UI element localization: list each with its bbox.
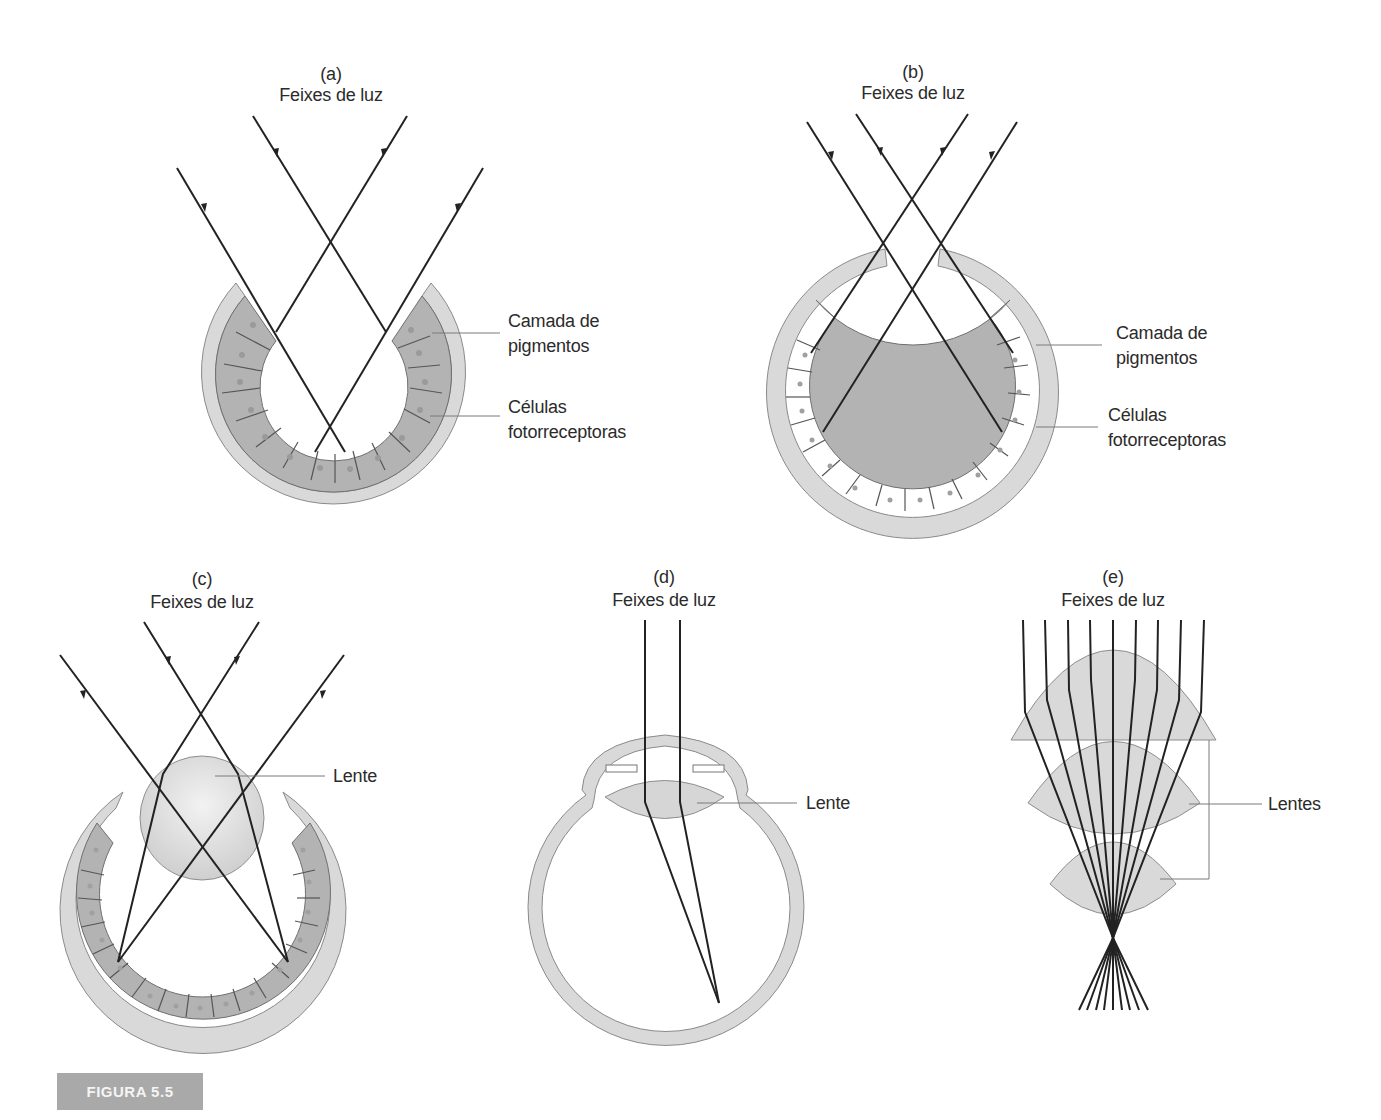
panel-e-id: (e) — [1102, 566, 1123, 588]
panel-c-diagram — [60, 622, 346, 1054]
panel-c-lens-label: Lente — [333, 765, 377, 787]
panel-d-title: Feixes de luz — [612, 589, 715, 611]
panel-d-id: (d) — [653, 566, 674, 588]
panel-a-title: Feixes de luz — [279, 84, 382, 106]
panel-b-title: Feixes de luz — [861, 82, 964, 104]
lens — [140, 756, 264, 880]
panel-a-label-pigment-1: Camada de — [508, 310, 599, 332]
panel-b-label-cells-1: Células — [1108, 404, 1167, 426]
lens — [605, 781, 724, 819]
ray-arrowheads — [201, 148, 461, 212]
panel-c-id: (c) — [192, 568, 212, 590]
panel-c-title: Feixes de luz — [150, 591, 253, 613]
ray-arrowheads — [80, 656, 326, 699]
panel-a-label-pigment-2: pigmentos — [508, 335, 589, 357]
panel-d-diagram — [528, 620, 804, 1045]
iris-right — [693, 765, 724, 772]
iris-left — [606, 765, 637, 772]
panel-b-label-cells-2: fotorreceptoras — [1108, 429, 1226, 451]
panel-a-id: (a) — [320, 63, 341, 85]
figure-number-badge: FIGURA 5.5 — [57, 1073, 203, 1110]
figure-canvas — [0, 0, 1381, 1120]
panel-e-diagram — [1011, 620, 1262, 1010]
panel-a-label-cells-1: Células — [508, 396, 567, 418]
panel-b-label-pigment-1: Camada de — [1116, 322, 1207, 344]
ray-arrowheads — [828, 147, 995, 160]
photoreceptor-cell-layer — [810, 300, 1016, 489]
panel-e-title: Feixes de luz — [1061, 589, 1164, 611]
panel-b-diagram — [767, 114, 1102, 538]
panel-b-id: (b) — [902, 61, 923, 83]
panel-b-label-pigment-2: pigmentos — [1116, 347, 1197, 369]
panel-a-diagram — [177, 116, 500, 504]
panel-a-label-cells-2: fotorreceptoras — [508, 421, 626, 443]
panel-e-lenses-label: Lentes — [1268, 793, 1321, 815]
panel-d-lens-label: Lente — [806, 792, 850, 814]
